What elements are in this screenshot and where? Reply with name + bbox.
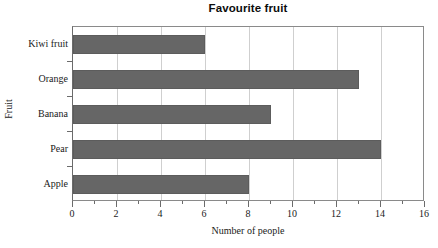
x-axis-tick-major — [336, 201, 337, 207]
x-axis-tick-minor — [138, 201, 139, 204]
x-tick-label-4: 4 — [145, 208, 175, 219]
y-tick-label-banana: Banana — [4, 109, 68, 119]
gridline — [381, 27, 382, 200]
bar-row — [73, 97, 271, 132]
x-tick-label-0: 0 — [57, 208, 87, 219]
x-tick-label-6: 6 — [189, 208, 219, 219]
x-axis-tick-minor — [314, 201, 315, 204]
bar-row — [73, 62, 359, 97]
x-axis-tick-minor — [402, 201, 403, 204]
x-axis-tick-major — [116, 201, 117, 207]
y-axis-tick — [67, 131, 72, 132]
x-axis-tick-minor — [270, 201, 271, 204]
x-axis-tick-major — [424, 201, 425, 207]
bar-row — [73, 27, 205, 62]
x-axis-tick-minor — [226, 201, 227, 204]
x-axis-tick-labels: 0246810121416 — [0, 208, 438, 221]
bar-orange[interactable] — [73, 70, 359, 89]
x-axis-tick-major — [380, 201, 381, 207]
bar-apple[interactable] — [73, 175, 249, 194]
x-axis-tick-major — [292, 201, 293, 207]
bar-kiwi-fruit[interactable] — [73, 35, 205, 54]
x-axis-tick-minor — [94, 201, 95, 204]
x-tick-label-10: 10 — [277, 208, 307, 219]
x-tick-label-16: 16 — [409, 208, 438, 219]
gridline — [337, 27, 338, 200]
y-axis-tick — [67, 96, 72, 97]
y-axis-tick — [67, 61, 72, 62]
x-axis-tick-major — [248, 201, 249, 207]
x-axis-tick-major — [204, 201, 205, 207]
x-axis-tick-major — [160, 201, 161, 207]
chart-title: Favourite fruit — [72, 2, 424, 14]
y-tick-label-pear: Pear — [4, 144, 68, 154]
x-tick-label-14: 14 — [365, 208, 395, 219]
x-axis-ticks — [72, 201, 425, 208]
y-tick-label-apple: Apple — [4, 179, 68, 189]
bar-pear[interactable] — [73, 140, 381, 159]
gridline — [293, 27, 294, 200]
y-tick-label-orange: Orange — [4, 74, 68, 84]
y-tick-label-kiwi-fruit: Kiwi fruit — [4, 39, 68, 49]
x-tick-label-8: 8 — [233, 208, 263, 219]
x-tick-label-12: 12 — [321, 208, 351, 219]
x-axis-title: Number of people — [72, 225, 424, 236]
x-axis-tick-major — [72, 201, 73, 207]
y-axis-tick-labels: ApplePearBananaOrangeKiwi fruit — [0, 26, 68, 201]
bar-chart-figure: Favourite fruit Fruit ApplePearBananaOra… — [0, 0, 438, 248]
y-axis-tick — [67, 166, 72, 167]
x-tick-label-2: 2 — [101, 208, 131, 219]
bar-banana[interactable] — [73, 105, 271, 124]
bar-row — [73, 167, 249, 201]
bar-row — [73, 132, 381, 167]
x-axis-tick-minor — [182, 201, 183, 204]
plot-area — [72, 26, 424, 201]
x-axis-tick-minor — [358, 201, 359, 204]
